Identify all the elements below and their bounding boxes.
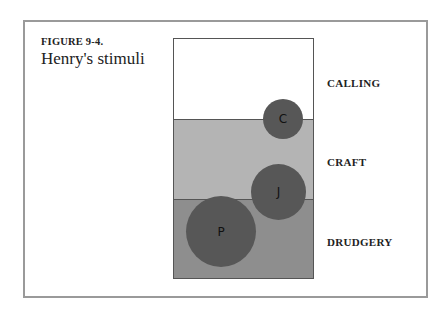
stimuli-diagram: C J P — [173, 38, 314, 279]
label-drudgery: DRUDGERY — [327, 236, 393, 248]
label-calling: CALLING — [327, 77, 380, 89]
bubble-p-label: P — [217, 225, 224, 239]
bubble-j: J — [251, 164, 306, 220]
label-craft: CRAFT — [327, 156, 366, 168]
figure-title: Henry's stimuli — [41, 49, 145, 69]
bubble-c-label: C — [279, 112, 287, 126]
bubble-j-label: J — [277, 185, 281, 199]
bubble-p: P — [186, 196, 256, 267]
bubble-c: C — [263, 99, 303, 139]
figure-number: FIGURE 9-4. — [41, 36, 103, 47]
